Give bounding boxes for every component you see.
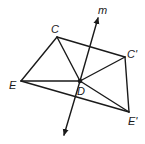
label-C: C <box>51 23 59 35</box>
label-line-m: m <box>98 4 107 16</box>
point-D-dot <box>78 79 83 84</box>
label-C-prime: C' <box>127 48 138 60</box>
label-E-prime: E' <box>128 115 138 127</box>
line-m-upper <box>80 18 98 81</box>
segment-C-prime-E-prime <box>125 57 129 112</box>
label-D: D <box>77 85 85 97</box>
diagram-canvas: C C' E E' D m <box>0 0 145 144</box>
segment-CD <box>57 37 80 81</box>
segment-DE-prime <box>80 81 129 112</box>
segment-CE <box>21 37 57 81</box>
label-E: E <box>9 79 17 91</box>
reflection-diagram: C C' E E' D m <box>0 0 145 144</box>
segment-C-prime-D <box>80 57 125 81</box>
